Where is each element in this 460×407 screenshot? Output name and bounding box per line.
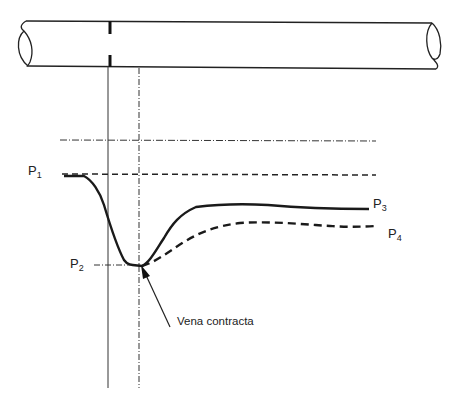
label-p4: P4: [388, 227, 402, 243]
orifice-flow-diagram: P1 P2 P3 P4 Vena contracta: [0, 0, 460, 407]
pipe: [18, 21, 440, 69]
label-p2: P2: [70, 257, 84, 273]
diagram-graphics: [0, 0, 460, 407]
vena-contracta-arrow: [141, 265, 170, 327]
pressure-curve-solid: [64, 176, 369, 266]
label-vena-contracta: Vena contracta: [177, 315, 254, 327]
pressure-curve-dashed: [142, 222, 376, 266]
top-dashdot-reference-line: [60, 140, 376, 141]
label-p3: P3: [373, 197, 387, 213]
label-p1: P1: [28, 164, 42, 180]
p1-dashed-reference-line: [62, 174, 376, 175]
